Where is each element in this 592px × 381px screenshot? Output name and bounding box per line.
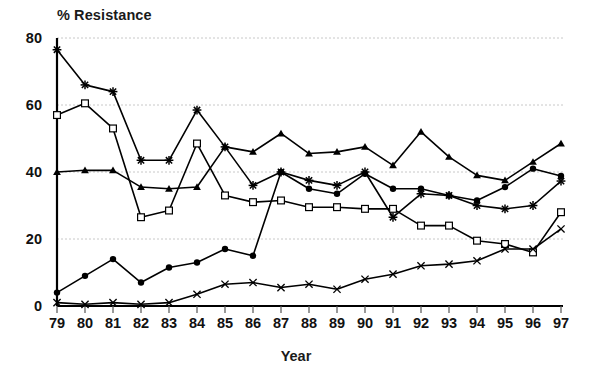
data-point-open-square (110, 125, 117, 132)
data-point-open-square (530, 249, 537, 256)
data-point-filled-triangle (361, 143, 369, 150)
data-point-filled-triangle (473, 172, 481, 179)
data-point-filled-circle (418, 186, 424, 192)
data-point-open-square (418, 222, 425, 229)
data-point-open-square (362, 205, 369, 212)
data-point-star (109, 87, 118, 96)
data-point-star (81, 81, 90, 90)
data-point-star (193, 106, 202, 115)
data-point-filled-circle (558, 173, 564, 179)
resistance-chart: % Resistance Year 80 60 40 20 0 79808182… (0, 0, 592, 381)
data-point-star (137, 156, 146, 165)
data-point-star (165, 156, 174, 165)
data-point-open-square (250, 199, 257, 206)
data-point-open-square (82, 100, 89, 107)
data-point-filled-triangle (277, 130, 285, 137)
data-point-filled-circle (306, 186, 312, 192)
data-point-star (249, 181, 258, 190)
data-point-filled-circle (362, 170, 368, 176)
plot-area (0, 0, 592, 381)
data-point-filled-circle (82, 273, 88, 279)
data-point-filled-triangle (417, 128, 425, 135)
data-point-star (389, 213, 398, 222)
data-point-filled-triangle (529, 158, 537, 165)
data-point-open-square (222, 192, 229, 199)
data-point-open-square (166, 207, 173, 214)
data-point-filled-triangle (557, 140, 565, 147)
data-point-open-square (54, 112, 61, 119)
data-point-star (501, 204, 510, 213)
data-point-filled-circle (530, 165, 536, 171)
data-point-open-square (474, 237, 481, 244)
data-point-filled-circle (166, 264, 172, 270)
data-point-open-square (278, 197, 285, 204)
data-point-open-square (306, 204, 313, 211)
data-point-open-square (194, 140, 201, 147)
data-point-open-square (390, 205, 397, 212)
data-point-filled-circle (194, 259, 200, 265)
data-point-star (305, 176, 314, 185)
data-point-filled-circle (222, 246, 228, 252)
data-point-star (529, 201, 538, 210)
data-point-open-square (138, 214, 145, 221)
series-layer (53, 45, 566, 308)
series-cross-line (57, 229, 561, 304)
data-point-open-square (446, 222, 453, 229)
data-point-cross (557, 225, 564, 232)
data-point-filled-circle (250, 253, 256, 259)
data-point-filled-circle (474, 197, 480, 203)
data-point-filled-circle (278, 169, 284, 175)
data-point-open-square (558, 209, 565, 216)
series-cross (53, 225, 564, 308)
data-point-star (53, 45, 62, 54)
data-point-open-square (334, 204, 341, 211)
data-point-star (333, 181, 342, 190)
data-point-filled-circle (110, 256, 116, 262)
data-point-filled-circle (390, 186, 396, 192)
data-point-filled-circle (502, 184, 508, 190)
data-point-filled-circle (54, 289, 60, 295)
data-point-filled-circle (446, 192, 452, 198)
data-point-filled-circle (138, 279, 144, 285)
data-point-filled-circle (334, 191, 340, 197)
gridlines (57, 38, 563, 306)
